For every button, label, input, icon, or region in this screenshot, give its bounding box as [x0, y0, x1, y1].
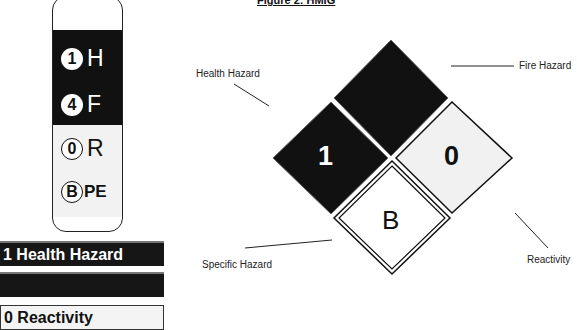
reactivity-label: Reactivity	[527, 254, 570, 265]
health-value: 1	[318, 141, 333, 172]
hmig-diamond-diagram	[0, 0, 577, 330]
health-hazard-label: Health Hazard	[196, 68, 260, 79]
reactivity-leader-line	[515, 213, 548, 248]
specific-value: B	[382, 205, 399, 236]
fire-hazard-label: Fire Hazard	[519, 60, 571, 71]
reactivity-value: 0	[444, 141, 459, 172]
health-leader-line	[234, 84, 269, 106]
specific-hazard-label: Specific Hazard	[202, 259, 272, 270]
specific-leader-line	[245, 240, 332, 248]
